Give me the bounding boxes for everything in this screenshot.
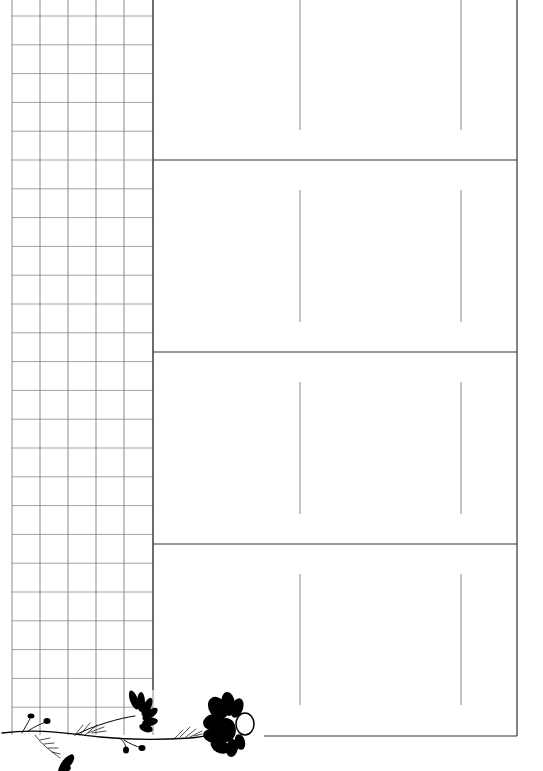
bud-icon [139, 745, 146, 751]
bud-icon [44, 718, 51, 724]
leaf-spray [175, 727, 202, 738]
leaf-spray [35, 735, 60, 758]
bud-icon [28, 714, 35, 719]
partial-flower-icon [58, 754, 74, 771]
bud-icon [123, 747, 129, 754]
floral-vine-decoration [2, 716, 225, 758]
flower-center [236, 713, 254, 735]
large-flower-icon [202, 691, 254, 757]
vine-branch-upper [75, 716, 135, 735]
planner-frame [153, 0, 517, 736]
planner-sheet [0, 0, 543, 771]
grid-column [12, 0, 153, 735]
planner-panels [153, 0, 517, 705]
bud-stem [28, 722, 46, 731]
petal-flower-small-icon [127, 689, 160, 734]
